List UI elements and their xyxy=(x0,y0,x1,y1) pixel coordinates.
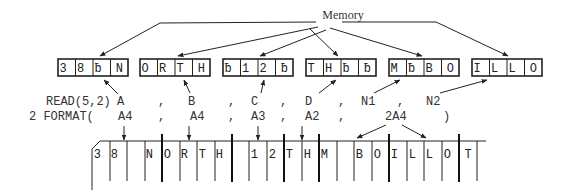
memory-arrows xyxy=(100,22,508,56)
arrow-memory-to-c xyxy=(260,30,326,56)
format-prefix: 2 FORMAT( xyxy=(29,110,94,124)
read-sep-5: , xyxy=(397,95,404,109)
arrow-memory-to-n1 xyxy=(330,28,422,56)
mem-b-char-2: T xyxy=(177,62,184,76)
format-spec-b: A4 xyxy=(190,110,204,124)
arrow-memory-to-d xyxy=(310,29,338,56)
read-sep-4: , xyxy=(338,95,345,109)
punched-card: 3 8 N O R T H 1 2 T H M B O I L L O T xyxy=(92,134,486,190)
arrow-memory-to-a xyxy=(100,22,316,56)
mem-n2-char-0: I xyxy=(474,62,481,76)
mem-c-char-2: 2 xyxy=(260,62,267,76)
format-spec-a: A4 xyxy=(118,110,132,124)
arrow-var-a xyxy=(104,80,118,94)
read-var-a: A xyxy=(117,95,125,109)
memory-label: Memory xyxy=(322,8,363,22)
read-var-b: B xyxy=(188,95,195,109)
format-spec-d: A2 xyxy=(305,110,319,124)
mem-n2-char-3: O xyxy=(530,62,537,76)
card-col-14: M xyxy=(321,148,328,162)
memory-word-n1: M ƀ B O xyxy=(389,59,459,76)
format-spec-c: A3 xyxy=(251,110,265,124)
svg-text:ƀ 1 2 ƀ: ƀ 1 2 ƀ xyxy=(225,62,288,76)
arrow-fmt-n1 xyxy=(357,125,386,138)
card-col-16: B xyxy=(356,148,363,162)
read-var-c: C xyxy=(251,95,258,109)
mem-a-char-1: 8 xyxy=(77,62,84,76)
format-sep-2: , xyxy=(228,110,235,124)
format-sep-1: , xyxy=(158,110,165,124)
arrow-fmt-n2 xyxy=(402,125,426,138)
mem-d-char-1: H xyxy=(325,62,332,76)
memory-word-d: T H ƀ ƀ xyxy=(306,59,376,76)
format-sep-3: , xyxy=(280,110,287,124)
mem-n1-char-3: O xyxy=(447,62,454,76)
mem-a-char-2: ƀ xyxy=(95,62,102,76)
card-col-22: T xyxy=(464,148,471,162)
mem-b-char-1: R xyxy=(159,62,166,76)
read-var-n2: N2 xyxy=(426,95,440,109)
memory-word-b: O R T H xyxy=(140,59,210,76)
card-col-7: T xyxy=(199,148,206,162)
card-col-17: O xyxy=(374,148,381,162)
card-col-13: H xyxy=(304,148,311,162)
read-sep-2: , xyxy=(228,95,235,109)
card-col-8: H xyxy=(216,148,223,162)
memory-word-a: 3 8 ƀ N xyxy=(58,59,128,76)
mem-n2-char-1: L xyxy=(491,62,498,76)
read-sep-3: , xyxy=(280,95,287,109)
read-prefix: READ(5,2) xyxy=(46,95,111,109)
svg-text:3 8 ƀ N: 3 8 ƀ N xyxy=(60,62,123,76)
mem-d-char-0: T xyxy=(308,62,315,76)
card-col-6: R xyxy=(181,148,188,162)
mem-n1-char-2: B xyxy=(426,62,433,76)
svg-text:O R T H: O R T H xyxy=(142,62,205,76)
mem-n1-char-1: ƀ xyxy=(408,62,415,76)
read-var-n1: N1 xyxy=(361,95,375,109)
svg-text:M ƀ B O: M ƀ B O xyxy=(391,62,454,76)
card-col-12: T xyxy=(286,148,293,162)
mem-n1-char-0: M xyxy=(391,62,398,76)
variable-arrows xyxy=(104,80,487,94)
arrow-var-b xyxy=(184,80,190,93)
mem-n2-char-2: L xyxy=(509,62,516,76)
card-col-1: 3 xyxy=(94,148,101,162)
svg-text:I L L O: I L L O xyxy=(474,62,537,76)
format-arrows xyxy=(124,125,426,140)
card-col-2: 8 xyxy=(111,148,118,162)
memory-word-n2: I L L O xyxy=(472,59,542,76)
arrow-var-n2 xyxy=(440,80,487,93)
fortran-read-format-diagram: Memory 3 8 ƀ N O R T H xyxy=(0,0,572,191)
format-sep-4: , xyxy=(338,110,345,124)
svg-text:T H ƀ ƀ: T H ƀ ƀ xyxy=(308,62,371,76)
mem-c-char-3: ƀ xyxy=(281,62,288,76)
arrow-var-n1 xyxy=(374,80,400,93)
read-statement: READ(5,2) A , B , C , D , N1 , N2 xyxy=(46,95,440,109)
card-col-11: 2 xyxy=(269,148,276,162)
arrow-var-d xyxy=(319,80,336,93)
read-sep-1: , xyxy=(158,95,165,109)
card-col-18: I xyxy=(391,148,398,162)
card-col-10: 1 xyxy=(251,148,258,162)
mem-c-char-1: 1 xyxy=(242,62,249,76)
card-col-21: O xyxy=(444,148,451,162)
svg-text:3 8 N: 3 8 N O R T H 1 2 T H M B O I L L O T xyxy=(94,148,472,162)
mem-a-char-0: 3 xyxy=(60,62,67,76)
mem-d-char-2: ƀ xyxy=(343,62,350,76)
read-var-d: D xyxy=(305,95,312,109)
card-col-5: O xyxy=(164,148,171,162)
memory-word-c: ƀ 1 2 ƀ xyxy=(223,59,293,76)
format-spec-n: 2A4 xyxy=(385,110,407,124)
card-col-19: L xyxy=(409,148,416,162)
format-suffix: ) xyxy=(443,110,450,124)
arrow-var-c xyxy=(261,80,264,93)
mem-c-char-0: ƀ xyxy=(225,62,232,76)
mem-b-char-3: H xyxy=(198,62,205,76)
mem-d-char-3: ƀ xyxy=(364,62,371,76)
card-col-20: L xyxy=(426,148,433,162)
card-col-4: N xyxy=(146,148,153,162)
format-statement: 2 FORMAT( A4 , A4 , A3 , A2 , 2A4 ) xyxy=(29,110,450,124)
mem-b-char-0: O xyxy=(142,62,149,76)
mem-a-char-3: N xyxy=(116,62,123,76)
